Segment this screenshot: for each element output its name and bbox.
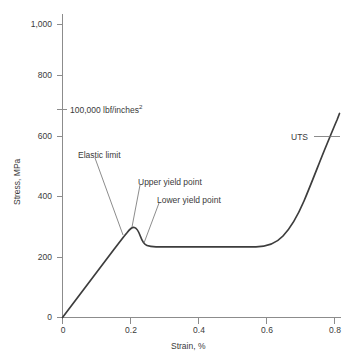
- y-tick-label-800: 800: [10, 71, 52, 80]
- x-tick-label-0: 0: [48, 326, 78, 335]
- leader-line-upper-yield-point: [132, 185, 140, 227]
- x-tick-label-0.6: 0.6: [252, 326, 282, 335]
- annotation-uts: UTS: [291, 133, 308, 142]
- annotation-lbf-superscript: 2: [139, 103, 142, 110]
- x-axis-title: Strain, %: [171, 341, 206, 351]
- annotation-lower-yield-point: Lower yield point: [157, 196, 221, 205]
- annotation-upper-yield-point: Upper yield point: [138, 178, 202, 187]
- annotation-elastic-limit: Elastic limit: [78, 151, 121, 160]
- y-tick-label-600: 600: [10, 132, 52, 141]
- y-tick-label-200: 200: [10, 253, 52, 262]
- stress-strain-curve: [63, 114, 340, 318]
- leader-line-lower-yield-point: [144, 203, 159, 243]
- x-tick-label-0.4: 0.4: [184, 326, 214, 335]
- y-tick-label-1000: 1,000: [10, 20, 52, 29]
- y-tick-label-0: 0: [10, 313, 52, 322]
- x-tick-label-0.2: 0.2: [116, 326, 146, 335]
- annotation-lbf-per-inches-squared: 100,000 lbf/inches2: [70, 106, 142, 115]
- x-tick-label-0.8: 0.8: [320, 326, 350, 335]
- y-axis-title: Stress, MPa: [12, 159, 22, 205]
- annotation-lbf-text: 100,000 lbf/inches: [70, 105, 139, 115]
- leader-line-elastic-limit: [95, 158, 123, 235]
- stress-strain-chart: 1,000 800 600 400 200 0 0 0.2 0.4 0.6 0.…: [0, 0, 351, 355]
